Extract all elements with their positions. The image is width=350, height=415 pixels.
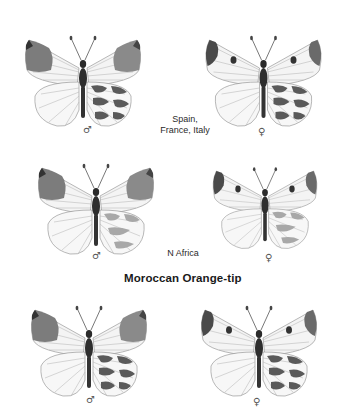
female-symbol: ♀ bbox=[253, 396, 260, 407]
female-symbol: ♀ bbox=[265, 252, 272, 263]
butterfly-male-icon bbox=[18, 30, 148, 130]
male-symbol: ♂ bbox=[92, 250, 101, 261]
butterfly-male-icon bbox=[26, 158, 166, 258]
specimen-underside-female bbox=[184, 300, 334, 400]
butterfly-female-icon bbox=[196, 30, 331, 130]
region-label-n-africa: N Africa bbox=[158, 248, 208, 259]
species-title: Moroccan Orange-tip bbox=[124, 272, 242, 284]
male-symbol: ♂ bbox=[83, 124, 92, 135]
butterfly-female-icon bbox=[184, 300, 334, 400]
specimen-spain-female bbox=[196, 30, 331, 130]
male-symbol: ♂ bbox=[86, 394, 95, 405]
specimen-underside-male bbox=[14, 300, 164, 400]
butterfly-female-icon bbox=[206, 162, 324, 252]
butterfly-male-icon bbox=[14, 300, 164, 400]
specimen-nafrica-male bbox=[26, 158, 166, 258]
specimen-spain-male bbox=[18, 30, 148, 130]
specimen-nafrica-female bbox=[206, 162, 324, 252]
female-symbol: ♀ bbox=[258, 126, 265, 137]
